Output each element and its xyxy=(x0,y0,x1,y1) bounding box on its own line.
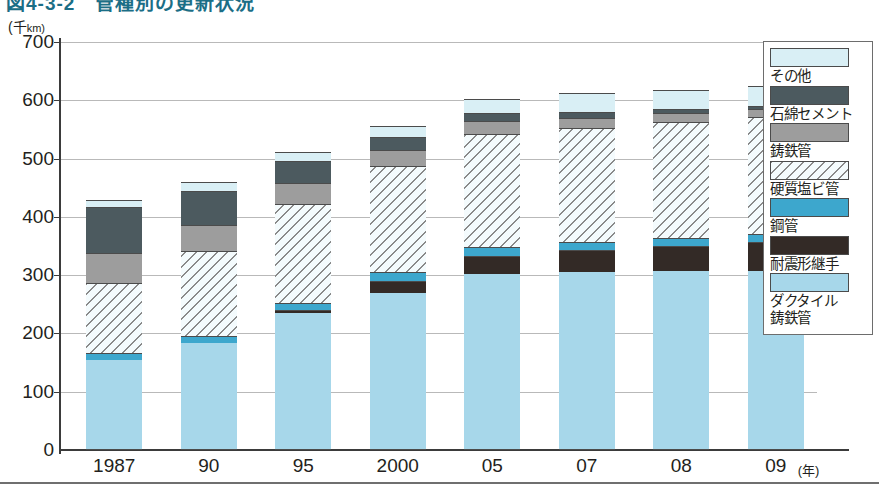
bar-2000[interactable] xyxy=(370,127,426,450)
y-axis-tick xyxy=(54,275,61,276)
bar-segment-ダクタイル鋳鉄管 xyxy=(181,343,237,449)
legend-swatch-pvc xyxy=(770,161,849,180)
bar-segment-硬質塩ビ管 xyxy=(181,251,237,336)
legend-item: 耐震形継手 xyxy=(770,236,867,273)
bar-segment-石綿セメント xyxy=(86,207,142,252)
bar-segment-硬質塩ビ管 xyxy=(464,134,520,248)
bar-segment-石綿セメント xyxy=(559,112,615,118)
bar-segment-ダクタイル鋳鉄管 xyxy=(370,293,426,449)
y-axis-tick xyxy=(54,392,61,393)
y-axis-tick xyxy=(54,217,61,218)
bar-segment-耐震形継手 xyxy=(464,256,520,275)
bar-segment-鋳鉄管 xyxy=(86,253,142,283)
y-axis-tick-label: 700 xyxy=(22,31,54,53)
bar-segment-石綿セメント xyxy=(370,137,426,150)
y-axis-tick xyxy=(54,100,61,101)
plot-area xyxy=(61,42,817,450)
legend-swatch-asbes xyxy=(770,86,849,105)
bar-segment-石綿セメント xyxy=(653,109,709,114)
bar-segment-石綿セメント xyxy=(275,161,331,183)
bar-segment-鋳鉄管 xyxy=(181,225,237,252)
x-axis-tick-label: 90 xyxy=(159,455,259,477)
bar-segment-鋳鉄管 xyxy=(653,113,709,122)
bar-segment-その他 xyxy=(653,90,709,109)
bar-segment-その他 xyxy=(370,126,426,137)
bar-segment-鋼管 xyxy=(370,272,426,281)
legend-label: 鋼管 xyxy=(770,218,867,235)
x-axis-tick-label: 1987 xyxy=(64,455,164,477)
bar-segment-ダクタイル鋳鉄管 xyxy=(275,313,331,449)
figure-title: 図4-3-2 管種別の更新状況 xyxy=(6,0,255,15)
bar-1987[interactable] xyxy=(86,201,142,450)
bar-segment-耐震形継手 xyxy=(275,310,331,313)
bar-90[interactable] xyxy=(181,183,237,450)
legend-label: その他 xyxy=(770,68,867,85)
bar-segment-鋼管 xyxy=(181,336,237,343)
bar-segment-石綿セメント xyxy=(464,113,520,121)
figure-container: 図4-3-2 管種別の更新状況 (千km) 010020030040050060… xyxy=(0,0,879,487)
bar-95[interactable] xyxy=(275,153,331,450)
bar-08[interactable] xyxy=(653,91,709,450)
legend-swatch-steel xyxy=(770,198,849,217)
y-axis-tick-label: 500 xyxy=(22,148,54,170)
legend-label: 石綿セメント xyxy=(770,106,867,123)
legend-item: 硬質塩ビ管 xyxy=(770,161,867,198)
bar-segment-硬質塩ビ管 xyxy=(653,122,709,238)
bar-segment-鋳鉄管 xyxy=(559,118,615,128)
y-axis-tick xyxy=(54,159,61,160)
y-axis-tick-label: 100 xyxy=(22,381,54,403)
y-axis-tick-label: 400 xyxy=(22,206,54,228)
legend-swatch-other xyxy=(770,48,849,67)
chart-legend: その他石綿セメント鋳鉄管硬質塩ビ管鋼管耐震形継手ダクタイル 鋳鉄管 xyxy=(763,41,873,335)
x-axis-unit-label: (年) xyxy=(798,460,820,479)
bar-segment-鋼管 xyxy=(653,238,709,246)
y-axis-tick xyxy=(54,42,61,43)
bar-segment-鋼管 xyxy=(86,353,142,361)
bar-07[interactable] xyxy=(559,94,615,450)
bar-segment-鋼管 xyxy=(464,247,520,255)
x-axis-tick-label: 2000 xyxy=(348,455,448,477)
legend-item: ダクタイル 鋳鉄管 xyxy=(770,273,867,326)
bar-segment-硬質塩ビ管 xyxy=(86,283,142,353)
bar-segment-ダクタイル鋳鉄管 xyxy=(559,272,615,449)
page-bottom-rule xyxy=(0,482,879,484)
bar-segment-耐震形継手 xyxy=(370,281,426,293)
bar-segment-ダクタイル鋳鉄管 xyxy=(464,274,520,449)
bar-segment-鋳鉄管 xyxy=(275,183,331,205)
x-axis-tick-label: 95 xyxy=(253,455,353,477)
bar-segment-鋳鉄管 xyxy=(370,150,426,166)
y-axis-tick xyxy=(54,333,61,334)
bar-segment-硬質塩ビ管 xyxy=(559,128,615,242)
bar-segment-鋳鉄管 xyxy=(464,121,520,134)
y-axis-tick-label: 200 xyxy=(22,322,54,344)
bar-segment-石綿セメント xyxy=(181,191,237,224)
x-axis-tick-label: 08 xyxy=(631,455,731,477)
y-axis-tick-label: 300 xyxy=(22,264,54,286)
bar-05[interactable] xyxy=(464,100,520,450)
bar-segment-硬質塩ビ管 xyxy=(370,166,426,271)
legend-label: 硬質塩ビ管 xyxy=(770,181,867,198)
legend-swatch-duct xyxy=(770,273,849,292)
bar-segment-硬質塩ビ管 xyxy=(275,204,331,303)
bar-segment-ダクタイル鋳鉄管 xyxy=(86,360,142,449)
bar-segment-その他 xyxy=(464,99,520,112)
bar-segment-その他 xyxy=(181,182,237,191)
bar-segment-ダクタイル鋳鉄管 xyxy=(653,271,709,449)
legend-item: 鋼管 xyxy=(770,198,867,235)
legend-item: 鋳鉄管 xyxy=(770,123,867,160)
legend-label: ダクタイル 鋳鉄管 xyxy=(770,293,867,326)
legend-swatch-quake xyxy=(770,236,849,255)
x-axis-tick-labels: 19879095200005070809(年) xyxy=(0,453,879,483)
gridline xyxy=(61,42,817,43)
bar-segment-その他 xyxy=(86,200,142,208)
y-axis-tick-label: 600 xyxy=(22,89,54,111)
y-axis-tick-labels: 0100200300400500600700 xyxy=(0,42,54,450)
legend-label: 耐震形継手 xyxy=(770,256,867,273)
x-axis-tick-label: 05 xyxy=(442,455,542,477)
bar-segment-耐震形継手 xyxy=(653,246,709,271)
bar-segment-鋼管 xyxy=(559,242,615,250)
legend-label: 鋳鉄管 xyxy=(770,143,867,160)
bar-segment-その他 xyxy=(559,93,615,112)
legend-item: 石綿セメント xyxy=(770,86,867,123)
bar-segment-耐震形継手 xyxy=(559,250,615,272)
